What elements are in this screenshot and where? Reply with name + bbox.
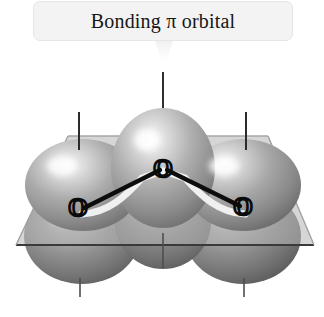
atom-label-right: O (233, 193, 252, 220)
upper-center-highlight (134, 129, 160, 151)
title-callout-box: Bonding π orbital (33, 1, 293, 41)
figure-root: Bonding π orbital (0, 0, 324, 317)
page-title: Bonding π orbital (91, 11, 236, 31)
atom-label-center: O (153, 155, 172, 182)
upper-left-highlight (47, 156, 77, 176)
upper-right-highlight (209, 156, 239, 176)
atom-label-left: O (68, 194, 87, 221)
